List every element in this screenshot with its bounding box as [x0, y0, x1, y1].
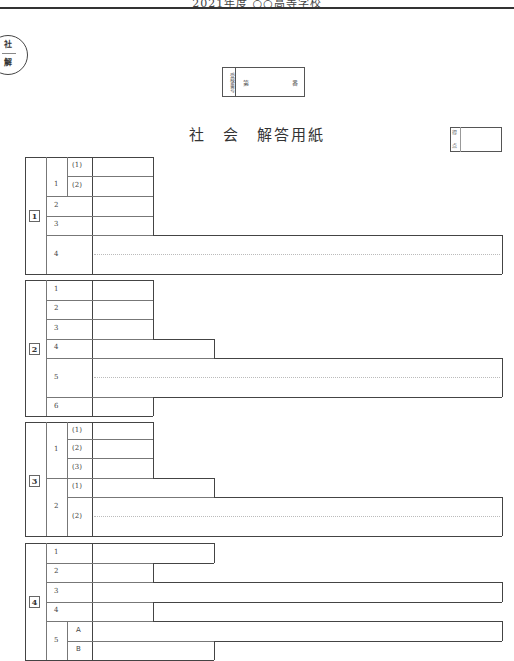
- answer-cell-3-1-2[interactable]: [93, 440, 153, 458]
- answer-cell-2-4[interactable]: [93, 340, 214, 358]
- border: [214, 641, 215, 660]
- question-number: 2: [54, 567, 58, 575]
- answer-cell-2-3[interactable]: [93, 320, 153, 339]
- sub-question-number: (2): [72, 181, 82, 189]
- header-rule: [0, 7, 514, 9]
- answer-cell-4-1[interactable]: [93, 544, 214, 563]
- section-number: 3: [29, 475, 40, 487]
- badge-top-text: 社: [4, 38, 12, 49]
- border: [502, 582, 503, 602]
- answer-cell-1-3[interactable]: [93, 217, 153, 235]
- question-number: 3: [54, 220, 58, 228]
- answer-cell-4-2[interactable]: [93, 564, 153, 582]
- border: [25, 422, 26, 536]
- border: [25, 543, 26, 660]
- answer-cell-1-1-1[interactable]: [93, 158, 153, 176]
- border: [153, 157, 154, 235]
- score-divider: [460, 127, 461, 152]
- question-number: 3: [54, 587, 58, 595]
- sub-question-number: (1): [72, 482, 82, 490]
- border: [153, 602, 154, 621]
- question-number: 4: [54, 250, 58, 258]
- divider: [46, 422, 47, 536]
- answer-cell-3-2-1[interactable]: [93, 479, 214, 497]
- sub-question-number: (1): [72, 426, 82, 434]
- score-field[interactable]: [450, 127, 502, 152]
- question-number: 1: [54, 548, 58, 556]
- section-number: 2: [29, 343, 40, 355]
- section-number: 4: [29, 596, 40, 608]
- answer-cell-4-3[interactable]: [93, 583, 502, 602]
- border: [214, 543, 215, 563]
- answer-cell-2-6[interactable]: [93, 398, 153, 416]
- answer-cell-1-1-2[interactable]: [93, 177, 153, 196]
- border: [25, 416, 153, 417]
- answer-cell-3-1-1[interactable]: [93, 423, 153, 439]
- question-number: 2: [54, 201, 58, 209]
- sub-question-label: A: [76, 626, 81, 634]
- question-number: 5: [54, 636, 58, 644]
- border: [214, 641, 502, 642]
- badge-divider: [2, 53, 16, 54]
- border: [153, 397, 502, 398]
- question-number: 5: [54, 373, 58, 381]
- page-title: 社 会 解答用紙: [0, 123, 514, 144]
- exam-number-prefix: 第: [243, 78, 249, 87]
- answer-cell-1-2[interactable]: [93, 197, 153, 216]
- border: [25, 536, 502, 537]
- answer-cell-3-2-2[interactable]: [93, 498, 502, 536]
- border: [502, 358, 503, 397]
- sub-question-label: B: [76, 645, 81, 653]
- answer-cell-2-2[interactable]: [93, 301, 153, 319]
- border: [153, 280, 154, 339]
- sub-question-number: (2): [72, 444, 82, 452]
- border: [25, 157, 26, 274]
- sub-question-number: (1): [72, 161, 82, 169]
- sub-question-number: (2): [72, 512, 82, 520]
- question-number: 2: [54, 502, 58, 510]
- question-number: 4: [54, 606, 58, 614]
- question-number: 3: [54, 324, 58, 332]
- border: [502, 235, 503, 274]
- question-number: 2: [54, 304, 58, 312]
- border: [153, 563, 154, 582]
- border: [502, 621, 503, 641]
- border: [25, 274, 502, 275]
- border: [502, 497, 503, 536]
- border: [214, 339, 215, 358]
- badge-bottom-text: 解: [4, 56, 12, 67]
- answer-cell-4-5-b[interactable]: [93, 642, 214, 660]
- exam-number-suffix: 番: [292, 78, 298, 87]
- answer-cell-4-4[interactable]: [93, 603, 153, 621]
- question-number: 4: [54, 343, 58, 351]
- border: [153, 563, 214, 564]
- border: [153, 602, 502, 603]
- question-number: 1: [54, 285, 58, 293]
- score-label-top: 得: [452, 128, 457, 135]
- border: [25, 280, 26, 416]
- question-number: 1: [54, 180, 58, 188]
- border: [214, 478, 215, 497]
- border: [153, 422, 154, 478]
- answer-cell-2-5[interactable]: [93, 359, 502, 397]
- answer-cell-4-5-a[interactable]: [93, 622, 502, 641]
- section-number: 1: [29, 210, 40, 222]
- exam-number-label: 受検番号: [222, 67, 236, 97]
- answer-cell-2-1[interactable]: [93, 281, 153, 300]
- border: [153, 397, 154, 416]
- answer-cell-3-1-3[interactable]: [93, 459, 153, 478]
- answer-cell-1-4[interactable]: [93, 236, 502, 274]
- question-number: 1: [54, 445, 58, 453]
- sub-question-number: (3): [72, 463, 82, 471]
- question-number: 6: [54, 402, 58, 410]
- score-label-bottom: 点: [452, 141, 457, 148]
